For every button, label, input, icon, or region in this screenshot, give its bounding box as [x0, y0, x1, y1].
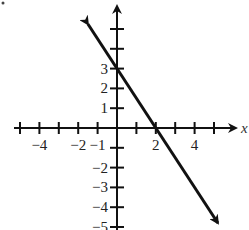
y-tick-label: 2: [101, 80, 109, 96]
x-axis: x: [14, 120, 248, 136]
x-tick-labels: −4−2−124: [31, 137, 198, 153]
y-tick-label: −4: [92, 199, 108, 215]
x-tick-label: 4: [191, 137, 199, 153]
x-axis-label: x: [240, 120, 248, 136]
x-tick-label: 2: [152, 137, 160, 153]
y-tick-label: −2: [92, 160, 108, 176]
stray-mark: [2, 2, 5, 5]
coordinate-graph: x −4−2−124 321−2−3−4−5: [0, 0, 249, 230]
y-tick-label: −5: [92, 219, 108, 230]
y-tick-label: −3: [92, 179, 108, 195]
y-axis: [110, 6, 124, 230]
x-tick-label: −1: [90, 137, 106, 153]
y-tick-label: 3: [101, 61, 109, 77]
y-tick-label: 1: [101, 100, 109, 116]
x-tick-label: −2: [70, 137, 86, 153]
x-tick-label: −4: [31, 137, 47, 153]
